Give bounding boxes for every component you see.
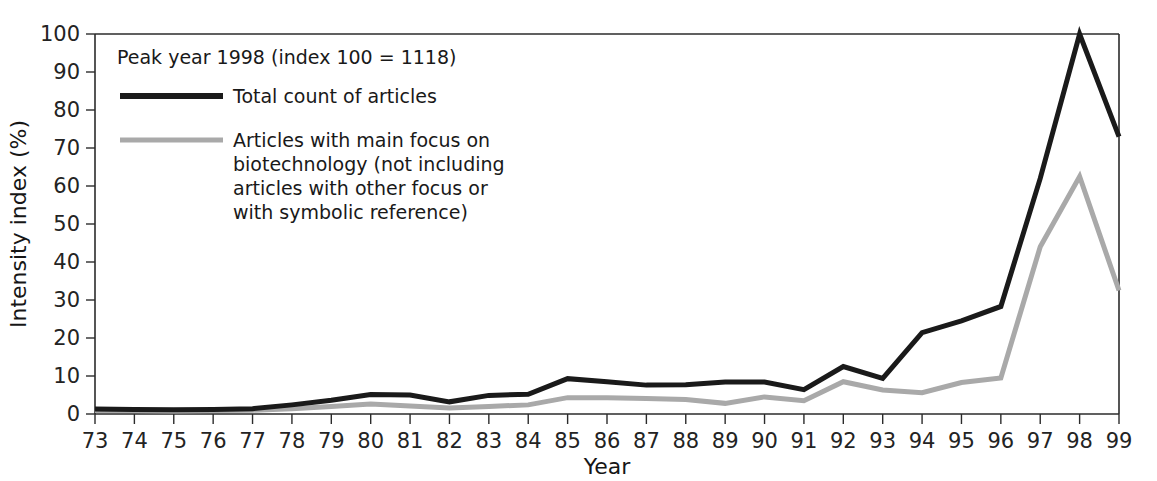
x-tick-label: 79 [318,429,345,453]
x-tick-label: 99 [1106,429,1133,453]
x-tick-label: 74 [121,429,148,453]
y-tick-label: 60 [53,174,80,198]
x-tick-label: 77 [239,429,266,453]
x-tick-label: 93 [869,429,896,453]
x-tick-label: 96 [987,429,1014,453]
y-tick-label: 40 [53,250,80,274]
x-tick-label: 90 [751,429,778,453]
x-tick-label: 94 [909,429,936,453]
y-axis-label: Intensity index (%) [6,120,31,328]
x-tick-label: 88 [672,429,699,453]
x-axis-label: Year [583,454,632,479]
x-tick-label: 84 [515,429,542,453]
x-tick-label: 76 [200,429,227,453]
y-tick-label: 100 [40,22,80,46]
legend-label-biotech-line2: biotechnology (not including [233,153,505,175]
x-axis-ticks: 7374757677787980818283848586878889909192… [82,414,1133,453]
y-tick-label: 20 [53,326,80,350]
x-tick-label: 97 [1027,429,1054,453]
x-tick-label: 78 [279,429,306,453]
x-tick-label: 75 [160,429,187,453]
legend-label-biotech-line4: with symbolic reference) [233,201,468,223]
x-tick-label: 73 [82,429,109,453]
line-chart-svg: 0102030405060708090100 73747576777879808… [0,0,1157,481]
x-tick-label: 98 [1066,429,1093,453]
x-tick-label: 87 [633,429,660,453]
y-tick-label: 0 [67,402,80,426]
x-tick-label: 86 [594,429,621,453]
y-tick-label: 80 [53,98,80,122]
x-tick-label: 95 [948,429,975,453]
x-tick-label: 82 [436,429,463,453]
y-tick-label: 30 [53,288,80,312]
x-tick-label: 91 [791,429,818,453]
y-axis-ticks: 0102030405060708090100 [40,22,95,426]
legend-label-total-count: Total count of articles [232,85,437,107]
y-tick-label: 50 [53,212,80,236]
y-tick-label: 10 [53,364,80,388]
peak-year-annotation: Peak year 1998 (index 100 = 1118) [117,46,456,68]
x-tick-label: 89 [712,429,739,453]
y-tick-label: 70 [53,136,80,160]
y-tick-label: 90 [53,60,80,84]
legend-label-biotech-line3: articles with other focus or [233,177,488,199]
x-tick-label: 83 [475,429,502,453]
x-tick-label: 85 [554,429,581,453]
x-tick-label: 81 [397,429,424,453]
x-tick-label: 92 [830,429,857,453]
chart-figure: 0102030405060708090100 73747576777879808… [0,0,1157,481]
legend-label-biotech-line1: Articles with main focus on [233,129,490,151]
x-tick-label: 80 [357,429,384,453]
